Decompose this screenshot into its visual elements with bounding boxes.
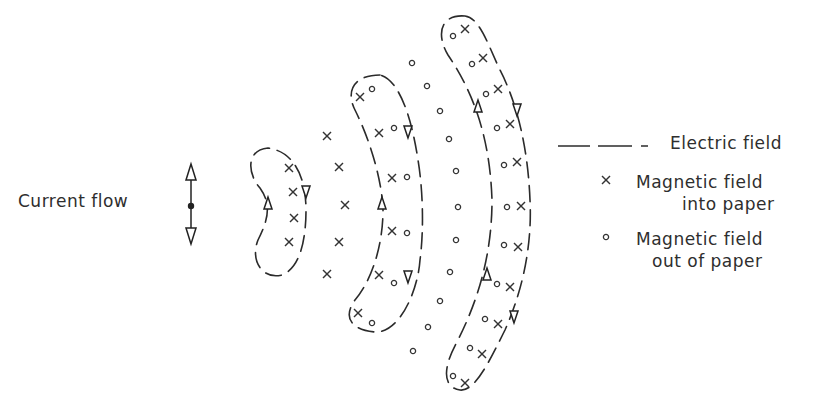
inner-electric-loop bbox=[251, 148, 310, 276]
magnetic-into-markers bbox=[285, 25, 525, 387]
current-flow-icon bbox=[186, 164, 196, 244]
legend-o-icon bbox=[603, 234, 608, 239]
legend-x-icon bbox=[602, 176, 610, 184]
field-diagram bbox=[0, 0, 822, 417]
middle-electric-loop bbox=[349, 75, 422, 332]
